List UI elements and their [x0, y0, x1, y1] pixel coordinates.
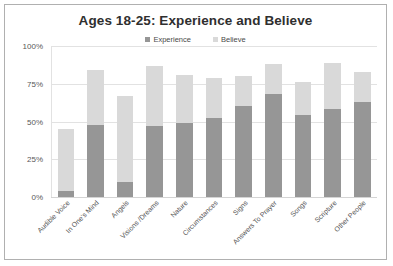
stacked-bar[interactable]: [324, 63, 341, 197]
bar-segment-believe[interactable]: [176, 75, 193, 123]
legend-item-experience[interactable]: Experience: [145, 35, 191, 44]
stacked-bar[interactable]: [354, 72, 371, 197]
y-tick-label: 25%: [27, 155, 43, 164]
bar-segment-experience[interactable]: [206, 118, 223, 197]
bar-segment-believe[interactable]: [206, 78, 223, 119]
x-axis-label: Nature: [169, 199, 189, 219]
bar-segment-experience[interactable]: [324, 109, 341, 197]
plot-area: [51, 46, 377, 197]
y-axis: 100%75%50%25%0%: [5, 46, 47, 197]
bar-segment-experience[interactable]: [117, 182, 134, 197]
x-axis: Audible VoiceIn One's MindAngelsVisions …: [51, 199, 377, 265]
bar-slot: [288, 46, 318, 197]
chart-title: Ages 18-25: Experience and Believe: [5, 13, 386, 28]
x-axis-label: Angels: [110, 199, 130, 219]
bar-slot: [229, 46, 259, 197]
bar-segment-believe[interactable]: [87, 70, 104, 124]
stacked-bar[interactable]: [146, 66, 163, 197]
bar-segment-believe[interactable]: [58, 129, 75, 191]
bar-segment-believe[interactable]: [235, 76, 252, 106]
bar-slot: [110, 46, 140, 197]
chart-frame: Ages 18-25: Experience and Believe Exper…: [4, 4, 387, 260]
bar-segment-experience[interactable]: [176, 123, 193, 197]
bar-segment-experience[interactable]: [265, 94, 282, 197]
legend-label-experience: Experience: [153, 35, 191, 44]
bar-segment-believe[interactable]: [146, 66, 163, 126]
stacked-bar[interactable]: [58, 129, 75, 197]
y-tick-label: 75%: [27, 79, 43, 88]
y-tick-label: 50%: [27, 117, 43, 126]
bar-segment-believe[interactable]: [324, 63, 341, 110]
bar-slot: [318, 46, 348, 197]
stacked-bar[interactable]: [206, 78, 223, 197]
stacked-bar[interactable]: [176, 75, 193, 197]
bar-slot: [81, 46, 111, 197]
bar-series-group: [51, 46, 377, 197]
legend-swatch-experience: [145, 37, 150, 42]
chart-legend: Experience Believe: [5, 35, 386, 44]
bar-slot: [199, 46, 229, 197]
stacked-bar[interactable]: [295, 82, 312, 197]
bar-segment-experience[interactable]: [295, 115, 312, 197]
bar-slot: [140, 46, 170, 197]
bar-segment-experience[interactable]: [58, 191, 75, 197]
stacked-bar[interactable]: [265, 64, 282, 197]
stacked-bar[interactable]: [235, 76, 252, 197]
y-tick-label: 0%: [31, 193, 43, 202]
stacked-bar[interactable]: [117, 96, 134, 197]
x-axis-label: Other People: [333, 199, 367, 233]
bar-segment-experience[interactable]: [87, 125, 104, 197]
bar-slot: [51, 46, 81, 197]
x-axis-label: Songs: [289, 199, 308, 218]
bar-segment-experience[interactable]: [354, 102, 371, 197]
x-axis-label: Scripture: [313, 199, 338, 224]
bar-segment-believe[interactable]: [295, 82, 312, 115]
bar-slot: [347, 46, 377, 197]
gridline: [51, 197, 377, 198]
legend-item-believe[interactable]: Believe: [213, 35, 246, 44]
stacked-bar[interactable]: [87, 70, 104, 197]
x-axis-label: Signs: [231, 199, 248, 216]
bar-segment-believe[interactable]: [117, 96, 134, 182]
bar-segment-experience[interactable]: [235, 106, 252, 197]
bar-slot: [258, 46, 288, 197]
bar-segment-experience[interactable]: [146, 126, 163, 197]
bar-segment-believe[interactable]: [265, 64, 282, 94]
bar-slot: [170, 46, 200, 197]
bar-segment-believe[interactable]: [354, 72, 371, 102]
legend-swatch-believe: [213, 37, 218, 42]
legend-label-believe: Believe: [221, 35, 246, 44]
y-tick-label: 100%: [23, 42, 43, 51]
